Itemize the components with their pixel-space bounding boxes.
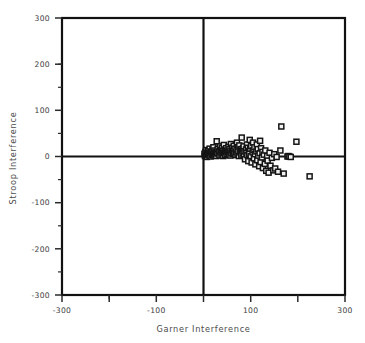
data-point-marker bbox=[307, 174, 312, 179]
x-tick-label: 300 bbox=[337, 306, 352, 315]
y-tick-label: 0 bbox=[45, 152, 50, 161]
y-tick-label: 200 bbox=[35, 60, 50, 69]
data-point-marker bbox=[281, 171, 286, 176]
x-tick-label: -100 bbox=[147, 306, 165, 315]
data-point-marker bbox=[258, 138, 263, 143]
x-axis-title: Garner Interference bbox=[156, 324, 250, 334]
data-point-marker bbox=[214, 139, 219, 144]
x-tick-label: 100 bbox=[243, 306, 258, 315]
data-point-marker bbox=[276, 169, 281, 174]
y-tick-label: -200 bbox=[32, 245, 50, 254]
data-point-marker bbox=[294, 139, 299, 144]
y-tick-label: -300 bbox=[32, 291, 50, 300]
y-axis-title: Stroop Interference bbox=[8, 112, 18, 205]
data-point-marker bbox=[278, 148, 283, 153]
y-tick-label: 300 bbox=[35, 14, 50, 23]
figure-background bbox=[0, 0, 365, 343]
y-tick-label: 100 bbox=[35, 106, 50, 115]
x-tick-label: -300 bbox=[53, 306, 71, 315]
data-point-marker bbox=[279, 124, 284, 129]
scatter-plot-figure: 3002001000-100-200-300 -300-100100300 Ga… bbox=[0, 0, 365, 343]
y-tick-label: -100 bbox=[32, 198, 50, 207]
data-point-marker bbox=[239, 135, 244, 140]
data-point-marker bbox=[288, 154, 293, 159]
data-point-marker bbox=[274, 154, 279, 159]
